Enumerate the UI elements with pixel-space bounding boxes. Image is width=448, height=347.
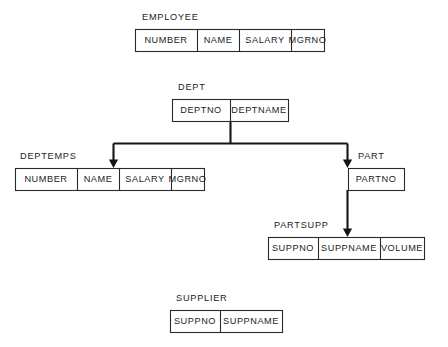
- entity-dept: DEPTDEPTNODEPTNAME: [173, 82, 289, 122]
- attribute-employee-number: NUMBER: [144, 35, 187, 45]
- attribute-employee-mgrno: MGRNO: [289, 35, 327, 45]
- entity-label-supplier: SUPPLIER: [176, 293, 227, 303]
- attribute-partsupp-suppno: SUPPNO: [272, 243, 314, 253]
- entity-label-employee: EMPLOYEE: [142, 12, 199, 22]
- entity-label-deptemps: DEPTEMPS: [20, 151, 77, 161]
- entity-part: PARTPARTNO: [349, 151, 405, 191]
- attribute-deptemps-number: NUMBER: [24, 174, 67, 184]
- attribute-dept-deptno: DEPTNO: [180, 105, 222, 115]
- attribute-deptemps-salary: SALARY: [125, 174, 164, 184]
- attribute-supplier-suppname: SUPPNAME: [223, 316, 279, 326]
- entity-layer: EMPLOYEENUMBERNAMESALARYMGRNODEPTDEPTNOD…: [16, 12, 425, 333]
- attribute-employee-salary: SALARY: [245, 35, 284, 45]
- entity-label-partsupp: PARTSUPP: [274, 220, 329, 230]
- attribute-partsupp-volume: VOLUME: [381, 243, 423, 253]
- attribute-partsupp-suppname: SUPPNAME: [321, 243, 377, 253]
- attribute-deptemps-mgrno: MGRNO: [169, 174, 207, 184]
- arrow-partsupp-icon: [343, 229, 352, 238]
- attribute-deptemps-name: NAME: [84, 174, 113, 184]
- attribute-employee-name: NAME: [204, 35, 233, 45]
- entity-supplier: SUPPLIERSUPPNOSUPPNAME: [171, 293, 283, 333]
- arrow-deptemps-icon: [109, 160, 118, 169]
- attribute-dept-deptname: DEPTNAME: [231, 105, 286, 115]
- entity-label-part: PART: [358, 151, 385, 161]
- attribute-part-partno: PARTNO: [356, 174, 397, 184]
- entity-deptemps: DEPTEMPSNUMBERNAMESALARYMGRNO: [16, 151, 207, 191]
- attribute-supplier-suppno: SUPPNO: [174, 316, 216, 326]
- arrow-part-icon: [343, 160, 352, 169]
- diagram-canvas: EMPLOYEENUMBERNAMESALARYMGRNODEPTDEPTNOD…: [0, 0, 448, 347]
- schema-diagram: EMPLOYEENUMBERNAMESALARYMGRNODEPTDEPTNOD…: [0, 0, 448, 347]
- entity-label-dept: DEPT: [178, 82, 206, 92]
- entity-employee: EMPLOYEENUMBERNAMESALARYMGRNO: [136, 12, 327, 52]
